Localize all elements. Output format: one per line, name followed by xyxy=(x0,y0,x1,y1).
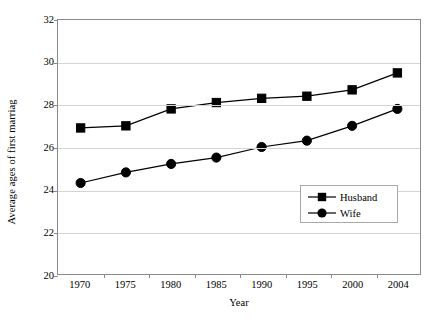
y-tick-mark xyxy=(54,148,58,149)
series-layer xyxy=(58,20,420,274)
data-point xyxy=(393,69,401,77)
gridline xyxy=(58,148,420,149)
data-point xyxy=(76,178,85,187)
data-point xyxy=(303,92,311,100)
legend-label: Wife xyxy=(340,208,361,219)
y-tick-mark xyxy=(54,20,58,21)
y-tick-label: 26 xyxy=(28,142,54,153)
data-point xyxy=(302,136,311,145)
data-point xyxy=(257,142,266,151)
legend-circle-marker-icon xyxy=(307,206,337,220)
y-axis-tick-labels: 20222426283032 xyxy=(24,0,54,324)
x-tick-label: 1975 xyxy=(102,279,148,290)
y-tick-label: 28 xyxy=(28,99,54,110)
series-line xyxy=(81,73,398,128)
data-point xyxy=(122,122,130,130)
y-tick-label: 22 xyxy=(28,227,54,238)
x-tick-label: 1970 xyxy=(57,279,103,290)
legend-label: Husband xyxy=(340,192,377,203)
y-tick-mark xyxy=(54,233,58,234)
line-chart: Average ages of first marriag 2022242628… xyxy=(0,0,439,324)
data-point xyxy=(121,168,130,177)
data-point xyxy=(348,121,357,130)
legend-square-marker-icon xyxy=(307,190,337,204)
gridline xyxy=(58,233,420,234)
data-point xyxy=(76,124,84,132)
x-tick-label: 1995 xyxy=(284,279,330,290)
data-point xyxy=(167,159,176,168)
gridline xyxy=(58,63,420,64)
y-tick-label: 32 xyxy=(28,14,54,25)
x-axis-tick-labels: 19701975198019851990199520002004 xyxy=(57,279,421,295)
y-tick-label: 20 xyxy=(28,270,54,281)
chart-legend: HusbandWife xyxy=(300,185,398,223)
x-tick-mark xyxy=(377,274,378,278)
x-tick-label: 1985 xyxy=(193,279,239,290)
gridline xyxy=(58,105,420,106)
x-tick-mark xyxy=(149,274,150,278)
data-point xyxy=(348,86,356,94)
y-tick-mark xyxy=(54,63,58,64)
y-tick-label: 24 xyxy=(28,184,54,195)
legend-item: Husband xyxy=(301,189,397,205)
y-axis-title: Average ages of first marriag xyxy=(0,0,22,324)
legend-item: Wife xyxy=(301,205,397,221)
data-point xyxy=(212,153,221,162)
x-tick-mark xyxy=(286,274,287,278)
y-tick-label: 30 xyxy=(28,56,54,67)
x-tick-mark xyxy=(331,274,332,278)
y-tick-mark xyxy=(54,191,58,192)
x-axis-title: Year xyxy=(57,297,421,308)
x-tick-label: 1980 xyxy=(148,279,194,290)
x-tick-mark xyxy=(240,274,241,278)
plot-area xyxy=(57,19,421,275)
x-tick-label: 2004 xyxy=(375,279,421,290)
y-tick-mark xyxy=(54,276,58,277)
y-tick-mark xyxy=(54,105,58,106)
x-tick-mark xyxy=(104,274,105,278)
x-tick-label: 2000 xyxy=(330,279,376,290)
x-tick-label: 1990 xyxy=(239,279,285,290)
x-tick-mark xyxy=(195,274,196,278)
series-wife xyxy=(76,104,402,187)
data-point xyxy=(257,94,265,102)
